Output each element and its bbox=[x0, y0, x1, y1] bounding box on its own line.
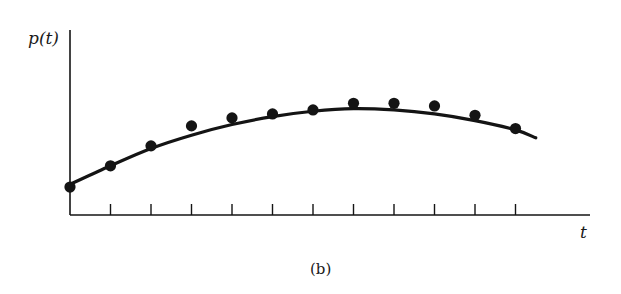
data-point bbox=[145, 140, 156, 151]
data-point bbox=[429, 100, 440, 111]
data-point bbox=[64, 181, 75, 192]
fitted-curve bbox=[70, 109, 536, 185]
data-point bbox=[267, 108, 278, 119]
data-point bbox=[186, 120, 197, 131]
data-point bbox=[510, 123, 521, 134]
chart-canvas: p(t) t (b) bbox=[0, 0, 621, 294]
y-axis-label: p(t) bbox=[28, 28, 59, 48]
data-points bbox=[64, 98, 521, 193]
data-point bbox=[307, 104, 318, 115]
figure-caption: (b) bbox=[310, 260, 331, 278]
data-point bbox=[388, 98, 399, 109]
data-point bbox=[469, 110, 480, 121]
x-axis-ticks bbox=[111, 204, 516, 215]
data-point bbox=[105, 160, 116, 171]
data-point bbox=[348, 98, 359, 109]
x-axis-label: t bbox=[580, 222, 587, 242]
data-point bbox=[226, 112, 237, 123]
